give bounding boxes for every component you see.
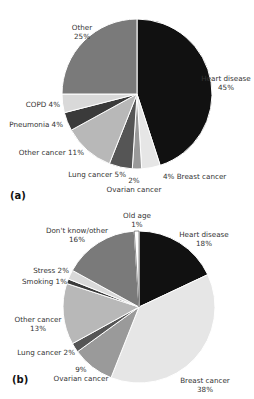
slice-label-other: Other25%	[72, 23, 92, 41]
slice-label-stress: Stress 2%	[33, 266, 69, 275]
panel-label-b: (b)	[12, 374, 28, 385]
slice-label-don-t-know-other: Don't know/other16%	[46, 226, 108, 244]
slice-label-breast-cancer: Breast cancer38%	[180, 376, 230, 394]
slice-label-other-cancer: Other cancer 11%	[19, 148, 84, 157]
slice-label-old-age: Old age1%	[123, 211, 151, 229]
pie-charts: Heart disease45%4% Breast cancer2%Ovaria…	[0, 0, 254, 399]
pie-chart-b: Heart disease18%Breast cancer38%9%Ovaria…	[15, 211, 230, 394]
slice-label-other-cancer: Other cancer13%	[15, 315, 62, 333]
panel-label-a: (a)	[10, 190, 26, 201]
pie-chart-a: Heart disease45%4% Breast cancer2%Ovaria…	[9, 19, 251, 194]
slice-label-copd: COPD 4%	[26, 100, 60, 109]
slice-label-smoking: Smoking 1%	[22, 277, 67, 286]
slice-label-lung-cancer: Lung cancer 2%	[17, 348, 75, 357]
slice-label-heart-disease: Heart disease18%	[179, 230, 229, 248]
slice-label-breast-cancer: 4% Breast cancer	[163, 172, 226, 181]
slice-label-lung-cancer: Lung cancer 5%	[68, 170, 126, 179]
slice-label-pneumonia: Pneumonia 4%	[9, 120, 63, 129]
